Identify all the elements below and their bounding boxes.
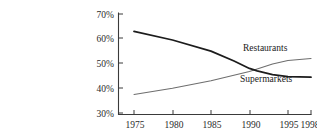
chart-figure: KZ 1-13 Share of Food Dollar ... 70% 60%… — [0, 0, 317, 139]
y-axis-label-30: 30% — [97, 109, 115, 119]
y-axis-label-70: 70% — [97, 10, 115, 20]
line-chart-plot: 70% 60% 50% 40% 30% 1975 1980 1985 1990 … — [0, 0, 317, 139]
x-axis-label-1995: 1995 — [280, 120, 299, 130]
x-axis-label-1990: 1990 — [242, 120, 261, 130]
x-axis-label-1975: 1975 — [126, 120, 145, 130]
x-axis-label-1985: 1985 — [203, 120, 222, 130]
y-axis-label-40: 40% — [97, 84, 115, 94]
y-axis-label-50: 50% — [97, 59, 115, 69]
y-axis-label-60: 60% — [97, 34, 115, 44]
series-label-restaurants: Restaurants — [243, 43, 288, 53]
x-axis-label-1980: 1980 — [165, 120, 184, 130]
series-label-supermarkets: Supermarkets — [240, 74, 293, 84]
x-axis-label-1998: 1998 — [301, 120, 318, 130]
chart-background — [0, 0, 317, 139]
